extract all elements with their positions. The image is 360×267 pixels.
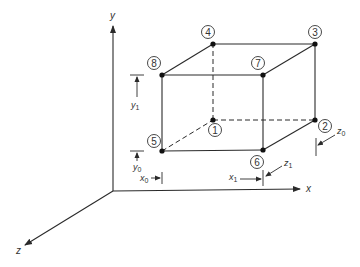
dim-z1-label: z1 <box>283 158 293 169</box>
dim-y0-label: y0 <box>132 162 142 173</box>
node-8-label: 8 <box>151 58 157 69</box>
x-axis <box>113 189 300 191</box>
z-axis <box>25 191 113 245</box>
node-7-label: 7 <box>255 58 261 69</box>
node-labels <box>148 26 332 169</box>
y-axis-label: y <box>109 10 116 21</box>
node-5-label: 5 <box>151 136 157 147</box>
coordinate-box-diagram: y x z 1 2 3 <box>0 0 360 267</box>
node-4-label: 4 <box>205 27 211 38</box>
node-1-label: 1 <box>212 125 218 136</box>
dim-z0-label: z0 <box>336 126 346 137</box>
dim-y1-label: y1 <box>130 100 140 111</box>
x-axis-label: x <box>305 183 312 194</box>
box-hidden-edges <box>162 44 315 151</box>
dim-x1-label: x1 <box>228 172 238 183</box>
box-solid-edges <box>162 44 315 151</box>
dim-x0-label: x0 <box>139 173 149 184</box>
z-axis-label: z <box>15 245 21 256</box>
diagram-canvas: y x z 1 2 3 <box>0 0 360 267</box>
node-3-label: 3 <box>312 27 318 38</box>
dimension-markers <box>130 75 335 186</box>
node-6-label: 6 <box>254 157 260 168</box>
vertex-dots <box>159 41 317 153</box>
node-2-label: 2 <box>322 121 328 132</box>
